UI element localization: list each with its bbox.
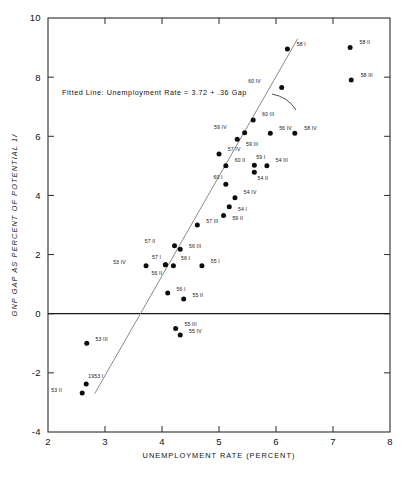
x-tick-label: 2 — [45, 436, 51, 447]
data-point — [171, 263, 176, 268]
data-point-label: 55 II — [193, 292, 204, 298]
x-tick-label: 8 — [387, 436, 393, 447]
x-tick-label: 6 — [273, 436, 279, 447]
data-point-label: 59 II — [232, 215, 243, 221]
scatter-plot: 23456781086420-2-4Fitted Line: Unemploym… — [0, 0, 418, 478]
data-point-label: 57 II — [145, 238, 156, 244]
data-point — [199, 263, 204, 268]
data-point-label: 58 IV — [304, 125, 317, 131]
data-point — [348, 45, 353, 50]
data-point-label: 54 IV — [244, 189, 257, 195]
data-point-label: 57 IV — [228, 146, 241, 152]
y-tick-label: -2 — [32, 367, 41, 378]
data-point-label: 56 I — [181, 255, 190, 261]
data-point-label: 56 II — [152, 270, 163, 276]
x-tick-label: 4 — [159, 436, 165, 447]
chart-figure: 23456781086420-2-4Fitted Line: Unemploym… — [0, 0, 418, 478]
y-tick-label: -4 — [32, 426, 41, 437]
data-point-label: 55 I — [211, 258, 220, 264]
data-point-label: 60 III — [262, 111, 274, 117]
data-point — [349, 78, 354, 83]
data-point — [84, 382, 89, 387]
data-point — [251, 118, 256, 123]
data-point-label: 54 I — [238, 206, 247, 212]
data-point-label: 55 III — [185, 321, 197, 327]
data-point — [292, 131, 297, 136]
data-point — [163, 262, 168, 267]
data-point — [173, 326, 178, 331]
data-point-label: 58 II — [360, 39, 371, 45]
data-point — [144, 263, 149, 268]
data-point-label: 60 II — [235, 157, 246, 163]
data-point-label: 60 IV — [248, 78, 261, 84]
data-point — [268, 131, 273, 136]
y-tick-label: 8 — [35, 72, 41, 83]
data-point — [227, 204, 232, 209]
data-point — [264, 163, 269, 168]
data-point-label: 60 I — [214, 174, 223, 180]
data-point-label: 58 III — [361, 72, 373, 78]
data-point — [235, 137, 240, 142]
data-point — [221, 213, 226, 218]
data-point — [252, 163, 257, 168]
data-point — [252, 170, 257, 175]
data-point-label: 54 II — [257, 175, 268, 181]
data-point-label: 56 III — [189, 243, 201, 249]
data-point — [178, 247, 183, 252]
data-point — [217, 152, 222, 157]
x-tick-label: 5 — [216, 436, 222, 447]
data-point — [80, 390, 85, 395]
data-point — [242, 130, 247, 135]
data-point-label: 1953 I — [88, 373, 103, 379]
y-tick-label: 0 — [35, 308, 41, 319]
data-point-label: 59 III — [246, 141, 258, 147]
y-tick-label: 4 — [35, 190, 41, 201]
data-point-label: 58 I — [297, 41, 306, 47]
data-point — [285, 47, 290, 52]
data-point-label: 59 I — [256, 154, 265, 160]
y-axis-title: GNP GAP AS PERCENT OF POTENTIAL 1/ — [10, 134, 19, 317]
data-point-label: 53 IV — [113, 259, 126, 265]
data-point — [84, 341, 89, 346]
data-point-label: 56 I — [177, 286, 186, 292]
x-tick-label: 7 — [330, 436, 336, 447]
annotation-leader-line — [272, 94, 296, 110]
data-point — [223, 182, 228, 187]
data-point — [181, 296, 186, 301]
data-point — [279, 85, 284, 90]
data-point-label: 55 IV — [189, 328, 202, 334]
fitted-line-annotation: Fitted Line: Unemployment Rate = 3.72 + … — [62, 88, 247, 97]
y-tick-label: 6 — [35, 131, 41, 142]
x-tick-label: 3 — [102, 436, 108, 447]
data-point-label: 59 IV — [214, 124, 227, 130]
data-point-label: 56 IV — [279, 125, 292, 131]
data-point-label: 53 III — [96, 336, 108, 342]
data-point — [172, 243, 177, 248]
data-point — [195, 223, 200, 228]
x-axis-title: UNEMPLOYMENT RATE (PERCENT) — [143, 451, 296, 460]
data-point-label: 53 II — [51, 387, 62, 393]
plot-frame — [48, 18, 390, 432]
data-point — [223, 163, 228, 168]
data-point — [232, 195, 237, 200]
y-tick-label: 2 — [35, 249, 41, 260]
data-point-label: 54 III — [276, 157, 288, 163]
data-point — [178, 333, 183, 338]
y-tick-label: 10 — [30, 12, 41, 23]
data-point — [165, 291, 170, 296]
data-point-label: 57 I — [152, 254, 161, 260]
data-point-label: 57 III — [206, 218, 218, 224]
